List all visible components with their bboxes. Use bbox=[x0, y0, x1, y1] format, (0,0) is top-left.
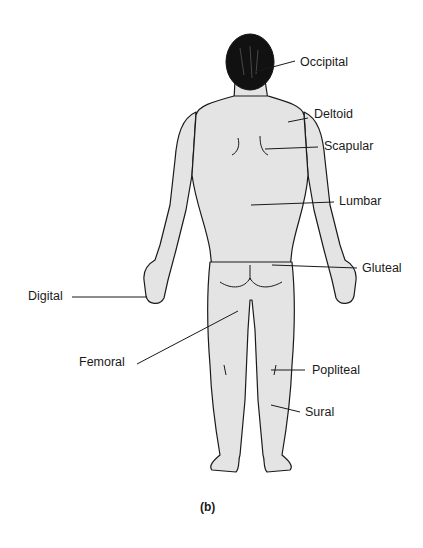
label-sural: Sural bbox=[305, 406, 334, 419]
label-gluteal: Gluteal bbox=[362, 262, 402, 275]
label-femoral: Femoral bbox=[79, 356, 125, 369]
label-deltoid: Deltoid bbox=[314, 108, 353, 121]
figure-caption: (b) bbox=[200, 500, 215, 514]
label-digital: Digital bbox=[28, 290, 63, 303]
label-occipital: Occipital bbox=[300, 56, 348, 69]
label-lumbar: Lumbar bbox=[339, 195, 381, 208]
head-hair bbox=[226, 34, 274, 90]
label-scapular: Scapular bbox=[324, 140, 373, 153]
body-diagram bbox=[0, 0, 423, 548]
label-popliteal: Popliteal bbox=[312, 364, 360, 377]
